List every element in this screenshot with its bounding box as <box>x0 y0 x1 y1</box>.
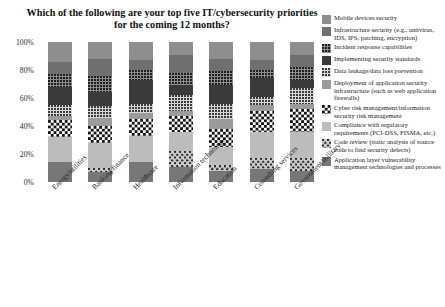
legend-item[interactable]: Data leakage/data loss prevention <box>322 67 444 77</box>
legend-label: Compliance with regulatory requirements … <box>334 121 444 136</box>
bar-segment <box>209 104 233 119</box>
bar-segment <box>169 85 193 95</box>
legend-item[interactable]: Incident response capabilities <box>322 43 444 53</box>
bar-segment <box>209 119 233 129</box>
bar-segment <box>209 59 233 72</box>
legend-label: Implementing security standards <box>334 55 420 63</box>
bar-segment <box>290 109 314 131</box>
bar-segment <box>290 55 314 68</box>
y-axis-tick: 0% <box>24 178 34 187</box>
bar-segment <box>250 42 274 60</box>
legend-label: Deployment of application security infra… <box>334 79 444 102</box>
bar-segment <box>209 71 233 85</box>
legend-swatch-icon <box>322 56 331 65</box>
bar-segment <box>129 104 153 114</box>
stacked-bar[interactable] <box>129 42 153 182</box>
y-axis-tick: 40% <box>20 122 34 131</box>
stacked-bar[interactable] <box>209 42 233 182</box>
bar-segment <box>48 120 72 137</box>
legend-item[interactable]: Cyber risk management/information securi… <box>322 104 444 119</box>
legend-swatch-icon <box>322 15 331 24</box>
stacked-bar[interactable] <box>48 42 72 182</box>
legend-swatch-icon <box>322 105 331 114</box>
chart-container: Which of the following are your top five… <box>0 0 445 307</box>
legend-item[interactable]: Mobile devices security <box>322 14 444 24</box>
legend-swatch-icon <box>322 27 331 36</box>
bar-segment <box>169 73 193 86</box>
bar-segment <box>250 97 274 105</box>
y-axis-tick: 20% <box>20 150 34 159</box>
bar-segment <box>290 88 314 103</box>
legend-swatch-icon <box>322 80 331 89</box>
legend-label: Incident response capabilities <box>334 43 412 51</box>
bar-segment <box>290 67 314 80</box>
stacked-bar[interactable] <box>169 42 193 182</box>
bar-segment <box>48 62 72 75</box>
bar-segment <box>169 132 193 152</box>
bar-segment <box>88 76 112 93</box>
bar-segment <box>48 42 72 62</box>
stacked-bar[interactable] <box>88 42 112 182</box>
bar-segment <box>88 126 112 143</box>
bar-segment <box>88 59 112 76</box>
y-axis-tick: 100% <box>16 38 34 47</box>
legend-label: Code review (static analysis of source c… <box>334 138 444 153</box>
bar-segment <box>88 106 112 117</box>
y-axis-tick: 60% <box>20 94 34 103</box>
legend-item[interactable]: Compliance with regulatory requirements … <box>322 121 444 136</box>
legend-label: Application layer vulnerability manageme… <box>334 156 444 171</box>
bar-segment <box>169 116 193 131</box>
stacked-bar[interactable] <box>250 42 274 182</box>
bar-segment <box>169 151 193 166</box>
bar-segment <box>48 105 72 116</box>
legend-swatch-icon <box>322 122 331 131</box>
bar-segment <box>209 85 233 103</box>
bar-segment <box>169 95 193 110</box>
bar-segment <box>250 132 274 159</box>
legend-item[interactable]: Implementing security standards <box>322 55 444 65</box>
legend-label: Infrastructure security (e.g., antivirus… <box>334 26 444 41</box>
bar-segment <box>129 136 153 163</box>
legend-swatch-icon <box>322 68 331 77</box>
bar-segment <box>88 118 112 126</box>
bar-segment <box>129 70 153 80</box>
legend-swatch-icon <box>322 44 331 53</box>
bar-segment <box>250 78 274 96</box>
y-axis-tick: 80% <box>20 66 34 75</box>
bar-segment <box>290 42 314 55</box>
chart-title: Which of the following are your top five… <box>26 7 318 31</box>
bar-segment <box>250 70 274 78</box>
bar-segment <box>250 111 274 132</box>
bar-segment <box>129 119 153 136</box>
legend-label: Cyber risk management/information securi… <box>334 104 444 119</box>
legend-label: Data leakage/data loss prevention <box>334 67 423 75</box>
bar-segment <box>48 74 72 87</box>
bar-segment <box>129 80 153 104</box>
legend-label: Mobile devices security <box>334 14 397 22</box>
bar-segment <box>169 42 193 55</box>
bar-segment <box>48 87 72 105</box>
bar-segment <box>250 60 274 70</box>
bar-segment <box>129 60 153 70</box>
legend-item[interactable]: Infrastructure security (e.g., antivirus… <box>322 26 444 41</box>
bar-segment <box>129 42 153 60</box>
legend-item[interactable]: Application layer vulnerability manageme… <box>322 156 444 171</box>
bar-segment <box>48 137 72 162</box>
bar-segment <box>290 80 314 88</box>
legend-item[interactable]: Deployment of application security infra… <box>322 79 444 102</box>
bar-segment <box>209 42 233 59</box>
bar-segment <box>169 55 193 73</box>
stacked-bar[interactable] <box>290 42 314 182</box>
bar-segment <box>88 42 112 59</box>
y-axis: 0%20%40%60%80%100% <box>0 34 36 190</box>
bar-segment <box>88 92 112 106</box>
